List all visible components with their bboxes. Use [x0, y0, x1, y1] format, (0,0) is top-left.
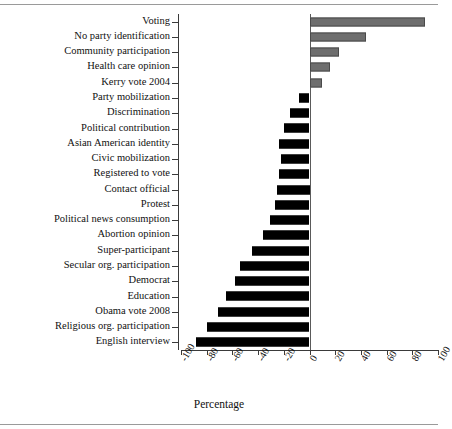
- bar-row: [181, 75, 438, 90]
- category-label: Civic mobilization: [92, 153, 170, 164]
- category-label: Political news consumption: [54, 214, 170, 225]
- bar-row: [181, 258, 438, 273]
- bar: [275, 200, 310, 209]
- bar: [284, 124, 310, 133]
- bar-row: [181, 45, 438, 60]
- y-axis-tick: [172, 220, 178, 221]
- bar: [196, 338, 309, 347]
- bar-row: [181, 228, 438, 243]
- bar: [310, 78, 322, 87]
- bar: [310, 48, 340, 57]
- category-label: Registered to vote: [94, 168, 170, 179]
- y-axis-tick: [172, 37, 178, 38]
- bar: [290, 109, 309, 118]
- category-label: English interview: [96, 336, 170, 347]
- y-axis-tick: [172, 327, 178, 328]
- y-axis-tick: [172, 174, 178, 175]
- y-axis-tick: [172, 281, 178, 282]
- y-axis-tick: [172, 251, 178, 252]
- bar: [235, 277, 310, 286]
- bar-row: [181, 60, 438, 75]
- bar-row: [181, 274, 438, 289]
- bottom-rule: [0, 424, 438, 425]
- category-label: Super-participant: [97, 245, 170, 256]
- category-label: Education: [127, 291, 170, 302]
- y-axis-tick: [172, 144, 178, 145]
- bar: [263, 231, 309, 240]
- y-axis-tick: [172, 52, 178, 53]
- bar-row: [181, 167, 438, 182]
- category-label: No party identification: [74, 31, 170, 42]
- category-label: Abortion opinion: [97, 229, 170, 240]
- bar: [310, 17, 425, 26]
- bar: [310, 32, 367, 41]
- bar-row: [181, 304, 438, 319]
- bar: [299, 93, 309, 102]
- category-label: Kerry vote 2004: [101, 77, 170, 88]
- y-axis-tick: [172, 98, 178, 99]
- y-axis-tick: [172, 190, 178, 191]
- x-axis-title: Percentage: [0, 398, 438, 410]
- x-axis-tick-label: 40: [359, 349, 373, 363]
- category-label: Contact official: [105, 184, 170, 195]
- y-axis-tick: [172, 67, 178, 68]
- bar-row: [181, 243, 438, 258]
- y-axis-tick: [172, 22, 178, 23]
- bar-row: [181, 90, 438, 105]
- category-label: Secular org. participation: [64, 260, 170, 271]
- category-label: Protest: [141, 199, 170, 210]
- y-axis-tick: [172, 113, 178, 114]
- bar: [252, 246, 310, 255]
- category-label: Discrimination: [107, 107, 170, 118]
- y-axis-tick: [172, 235, 178, 236]
- bar-row: [181, 212, 438, 227]
- bar: [240, 261, 309, 270]
- bar: [279, 139, 310, 148]
- y-axis-tick: [172, 297, 178, 298]
- bar: [279, 170, 310, 179]
- category-label: Religious org. participation: [55, 321, 170, 332]
- bar: [310, 63, 331, 72]
- bar-row: [181, 29, 438, 44]
- y-axis-tick: [172, 159, 178, 160]
- bar-row: [181, 14, 438, 29]
- x-axis-tick-label: 0: [308, 354, 319, 363]
- category-label: Community participation: [64, 46, 170, 57]
- x-axis-tick-label: 100: [436, 345, 452, 363]
- y-axis-tick: [172, 342, 178, 343]
- bar: [207, 322, 310, 331]
- category-label: Asian American identity: [67, 138, 170, 149]
- y-axis-tick: [172, 266, 178, 267]
- bar-row: [181, 182, 438, 197]
- x-axis-tick-label: 80: [410, 349, 424, 363]
- bar: [277, 185, 309, 194]
- y-axis-tick: [172, 312, 178, 313]
- bar-row: [181, 319, 438, 334]
- category-label: Voting: [142, 16, 170, 27]
- bar-row: [181, 136, 438, 151]
- x-axis-tick-label: 20: [333, 349, 347, 363]
- category-label: Party mobilization: [92, 92, 170, 103]
- bar-row: [181, 335, 438, 350]
- category-label: Democrat: [129, 275, 170, 286]
- x-axis-tick-label: 60: [385, 349, 399, 363]
- bar-row: [181, 106, 438, 121]
- bar: [218, 307, 309, 316]
- y-axis-tick: [172, 83, 178, 84]
- bar-row: [181, 151, 438, 166]
- y-axis-tick: [172, 129, 178, 130]
- category-axis-labels: VotingNo party identificationCommunity p…: [0, 14, 170, 350]
- bar: [270, 216, 310, 225]
- category-label: Political contribution: [81, 123, 170, 134]
- category-label: Obama vote 2008: [95, 306, 170, 317]
- bar-row: [181, 289, 438, 304]
- y-axis-tick: [172, 205, 178, 206]
- category-label: Health care opinion: [87, 61, 170, 72]
- y-axis-line: [178, 14, 179, 350]
- bar-row: [181, 121, 438, 136]
- bar: [226, 292, 310, 301]
- bar: [281, 155, 309, 164]
- bar-plot-area: [181, 14, 438, 350]
- top-rule: [0, 4, 438, 5]
